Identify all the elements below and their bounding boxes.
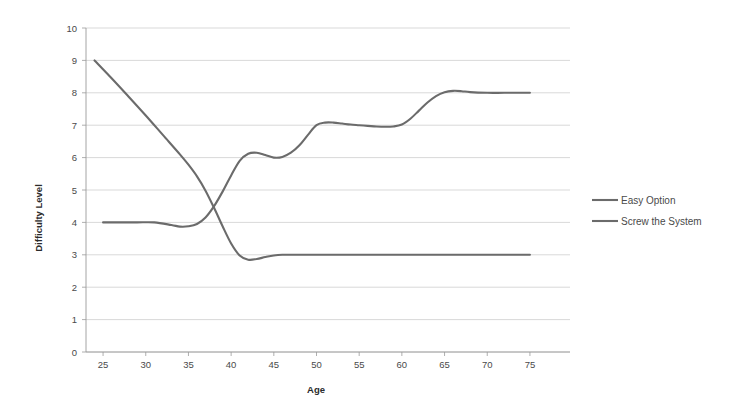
y-axis-title: Difficulty Level: [33, 184, 44, 252]
y-tick-label: 8: [72, 87, 77, 98]
x-tick-label: 65: [439, 359, 450, 370]
gridlines: [86, 28, 570, 352]
legend-label: Screw the System: [621, 216, 702, 227]
y-tick-label: 2: [72, 282, 77, 293]
y-tick-label: 5: [72, 185, 77, 196]
y-tick-label: 10: [66, 23, 77, 34]
x-tick-label: 35: [183, 359, 194, 370]
y-tick-label: 1: [72, 314, 77, 325]
x-tick-label: 50: [311, 359, 322, 370]
y-axis-tick-labels: 012345678910: [66, 23, 77, 358]
series-line-easy-option: [103, 91, 530, 227]
y-tick-label: 4: [72, 217, 77, 228]
x-axis-tick-labels: 2530354045505560657075: [98, 359, 535, 370]
x-tick-label: 30: [140, 359, 151, 370]
y-tick-label: 0: [72, 347, 77, 358]
series-line-screw-the-system: [95, 60, 530, 259]
x-tick-label: 40: [226, 359, 237, 370]
x-tick-label: 45: [269, 359, 280, 370]
x-tick-label: 70: [482, 359, 493, 370]
x-axis-title: Age: [307, 384, 325, 395]
y-tick-label: 3: [72, 249, 77, 260]
y-tick-label: 9: [72, 55, 77, 66]
x-tick-label: 60: [397, 359, 408, 370]
x-tick-label: 55: [354, 359, 365, 370]
chart-canvas: 012345678910 2530354045505560657075 Diff…: [0, 0, 733, 419]
tick-marks: [82, 28, 530, 356]
line-chart: 012345678910 2530354045505560657075 Diff…: [0, 0, 733, 419]
x-tick-label: 75: [525, 359, 536, 370]
y-tick-label: 6: [72, 152, 77, 163]
y-tick-label: 7: [72, 120, 77, 131]
chart-legend: Easy OptionScrew the System: [592, 195, 702, 227]
legend-label: Easy Option: [621, 195, 675, 206]
data-series-group: [95, 60, 530, 259]
x-tick-label: 25: [98, 359, 109, 370]
